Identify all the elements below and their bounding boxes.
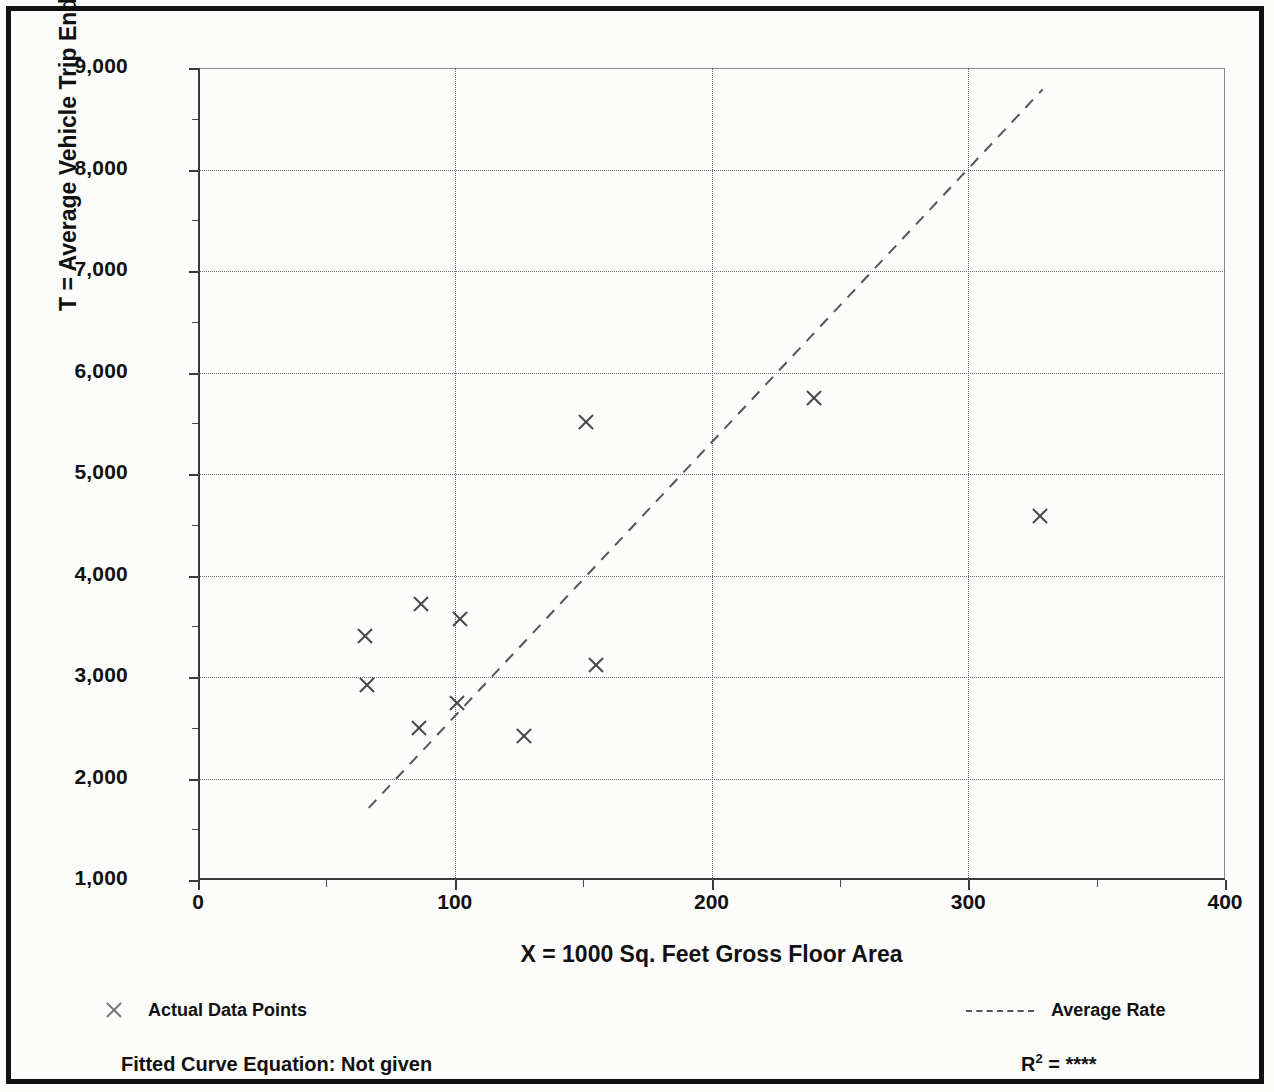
- y-tick-major: [189, 271, 198, 273]
- x-tick-minor: [326, 880, 327, 887]
- y-tick-major: [189, 474, 198, 476]
- legend-dashed-line-icon: [966, 1010, 1034, 1012]
- average-rate-trendline: [198, 68, 1225, 880]
- plot-area: 1,0002,0003,0004,0005,0006,0007,0008,000…: [198, 68, 1225, 880]
- y-tick-label: 8,000: [32, 156, 128, 180]
- x-tick-major: [455, 880, 457, 890]
- y-tick-label: 6,000: [32, 359, 128, 383]
- data-point-marker: [354, 625, 376, 647]
- x-tick-major: [712, 880, 714, 890]
- r-squared-annotation: R2 = ****: [1021, 1051, 1097, 1076]
- chart-frame: T = Average Vehicle Trip Ends 1,0002,000…: [6, 6, 1264, 1084]
- chart-page: T = Average Vehicle Trip Ends 1,0002,000…: [0, 0, 1274, 1092]
- x-axis-title: X = 1000 Sq. Feet Gross Floor Area: [198, 941, 1225, 968]
- y-tick-major: [189, 373, 198, 375]
- y-tick-label: 5,000: [32, 460, 128, 484]
- y-tick-label: 7,000: [32, 257, 128, 281]
- data-point-marker: [446, 692, 468, 714]
- fitted-curve-equation: Fitted Curve Equation: Not given: [121, 1053, 432, 1076]
- x-tick-label: 400: [1180, 890, 1270, 914]
- data-point-marker: [408, 717, 430, 739]
- y-tick-label: 1,000: [32, 866, 128, 890]
- y-tick-label: 9,000: [32, 54, 128, 78]
- data-point-marker: [410, 593, 432, 615]
- r-squared-value: ****: [1065, 1053, 1096, 1075]
- y-tick-major: [189, 68, 198, 70]
- r-squared-letter: R: [1021, 1053, 1035, 1075]
- x-tick-minor: [583, 880, 584, 887]
- x-tick-major: [1225, 880, 1227, 890]
- y-tick-major: [189, 779, 198, 781]
- y-tick-major: [189, 576, 198, 578]
- y-tick-major: [189, 170, 198, 172]
- data-point-marker: [803, 387, 825, 409]
- x-tick-major: [198, 880, 200, 890]
- legend-label-average-rate: Average Rate: [1051, 1000, 1165, 1021]
- x-tick-major: [968, 880, 970, 890]
- x-tick-minor: [1097, 880, 1098, 887]
- x-tick-label: 0: [153, 890, 243, 914]
- y-tick-label: 4,000: [32, 562, 128, 586]
- y-tick-label: 2,000: [32, 765, 128, 789]
- legend-label-data-points: Actual Data Points: [148, 1000, 307, 1021]
- y-tick-label: 3,000: [32, 663, 128, 687]
- r-squared-exponent: 2: [1035, 1051, 1042, 1066]
- data-point-marker: [585, 654, 607, 676]
- data-point-marker: [1029, 505, 1051, 527]
- legend-x-marker-icon: [103, 999, 125, 1021]
- data-point-marker: [356, 674, 378, 696]
- x-tick-minor: [840, 880, 841, 887]
- x-tick-label: 200: [667, 890, 757, 914]
- x-tick-label: 300: [923, 890, 1013, 914]
- data-point-marker: [575, 411, 597, 433]
- data-point-marker: [513, 725, 535, 747]
- x-tick-label: 100: [410, 890, 500, 914]
- y-tick-major: [189, 677, 198, 679]
- data-point-marker: [449, 608, 471, 630]
- y-tick-major: [189, 880, 198, 882]
